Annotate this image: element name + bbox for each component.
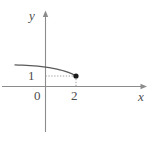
tick-label-y-one: 1 bbox=[28, 69, 35, 82]
y-axis-arrow-icon bbox=[43, 11, 48, 18]
tick-label-x-two: 2 bbox=[71, 89, 78, 102]
curve-endpoint-dot bbox=[73, 73, 78, 78]
x-axis-label: x bbox=[138, 90, 144, 103]
y-axis-label: y bbox=[29, 9, 35, 22]
graph-canvas bbox=[0, 0, 157, 141]
tick-label-origin: 0 bbox=[34, 89, 41, 102]
graph-figure: 0 1 2 x y bbox=[0, 0, 157, 141]
